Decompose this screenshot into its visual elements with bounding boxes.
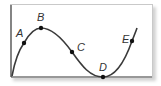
point-e [130,39,134,43]
point-label-b: B [37,11,44,23]
point-label-a: A [15,27,23,39]
function-graph: ABCDE [0,0,161,86]
point-d [101,75,105,79]
curve [12,28,137,77]
point-c [70,50,74,54]
point-b [39,26,43,30]
point-label-c: C [77,41,85,53]
point-label-e: E [122,33,130,45]
point-a [22,41,26,45]
point-label-d: D [99,61,107,73]
